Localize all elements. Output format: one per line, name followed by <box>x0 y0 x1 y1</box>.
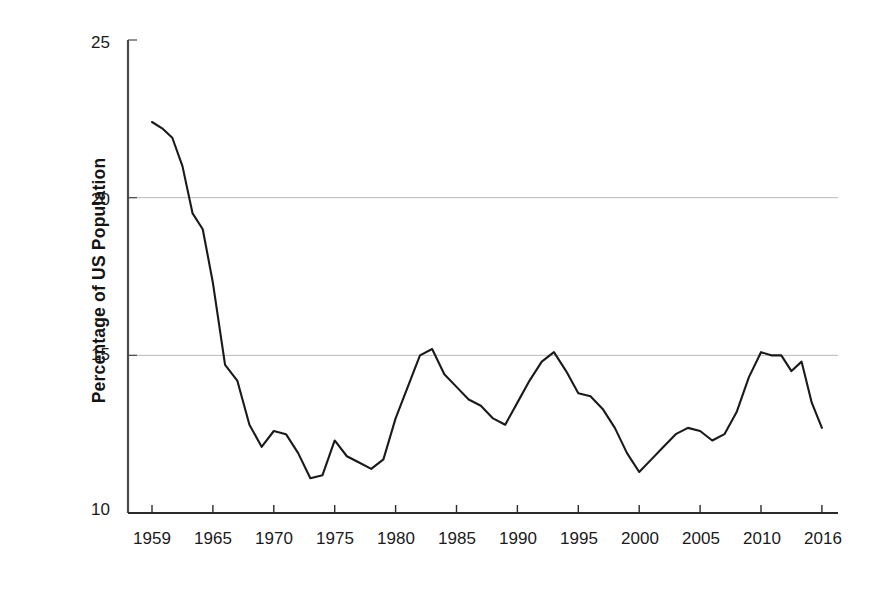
x-axis-ticks <box>152 505 822 513</box>
gridlines <box>128 198 838 356</box>
plot-area <box>0 0 886 599</box>
axis-lines <box>128 40 838 513</box>
data-line-series <box>152 122 822 478</box>
poverty-rate-chart: Percentage of US Population 25 20 15 10 … <box>0 0 886 599</box>
y-axis-ticks <box>128 40 137 355</box>
